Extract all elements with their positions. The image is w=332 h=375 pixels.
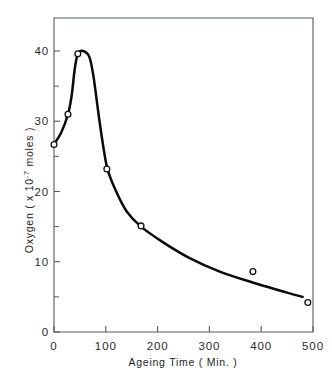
x-tick-label-200: 200: [147, 340, 169, 352]
marker-group: [51, 51, 311, 305]
plot-frame: [54, 18, 313, 332]
x-tick-label-300: 300: [198, 340, 220, 352]
y-axis-ticks-major: [54, 51, 60, 332]
y-axis-title-tail: moles ): [23, 127, 35, 167]
data-point-0: [51, 142, 57, 148]
oxygen-vs-ageing-time-chart: 0 10 20 30 40 0 100 200 300 400 500 Agei…: [0, 0, 332, 375]
y-axis-tick-labels: 0 10 20 30 40: [34, 45, 49, 338]
y-axis-title-exponent: -7: [22, 170, 31, 178]
x-axis-title: Ageing Time ( Min. ): [129, 356, 238, 368]
x-tick-label-100: 100: [95, 340, 117, 352]
x-tick-label-0: 0: [50, 340, 57, 352]
data-point-2: [75, 51, 81, 57]
y-tick-label-20: 20: [34, 186, 49, 198]
data-curve-main: [54, 51, 303, 297]
y-tick-label-10: 10: [34, 256, 49, 268]
data-point-6: [305, 300, 311, 306]
y-tick-label-40: 40: [34, 45, 49, 57]
x-axis-title-text: Ageing Time ( Min. ): [129, 356, 238, 368]
x-tick-label-500: 500: [302, 340, 324, 352]
data-point-1: [65, 111, 71, 117]
chart-figure: 0 10 20 30 40 0 100 200 300 400 500 Agei…: [0, 0, 332, 375]
x-tick-label-400: 400: [250, 340, 272, 352]
x-axis-tick-labels: 0 100 200 300 400 500: [50, 340, 324, 352]
y-tick-label-30: 30: [34, 115, 49, 127]
data-point-3: [104, 166, 110, 172]
x-axis-ticks: [54, 326, 313, 332]
data-point-5: [250, 269, 256, 275]
data-point-4: [138, 223, 144, 229]
y-axis-title: Oxygen ( x 10-7 moles ): [22, 127, 35, 253]
y-axis-title-main: Oxygen ( x 10: [23, 178, 35, 253]
y-tick-label-0: 0: [42, 326, 49, 338]
